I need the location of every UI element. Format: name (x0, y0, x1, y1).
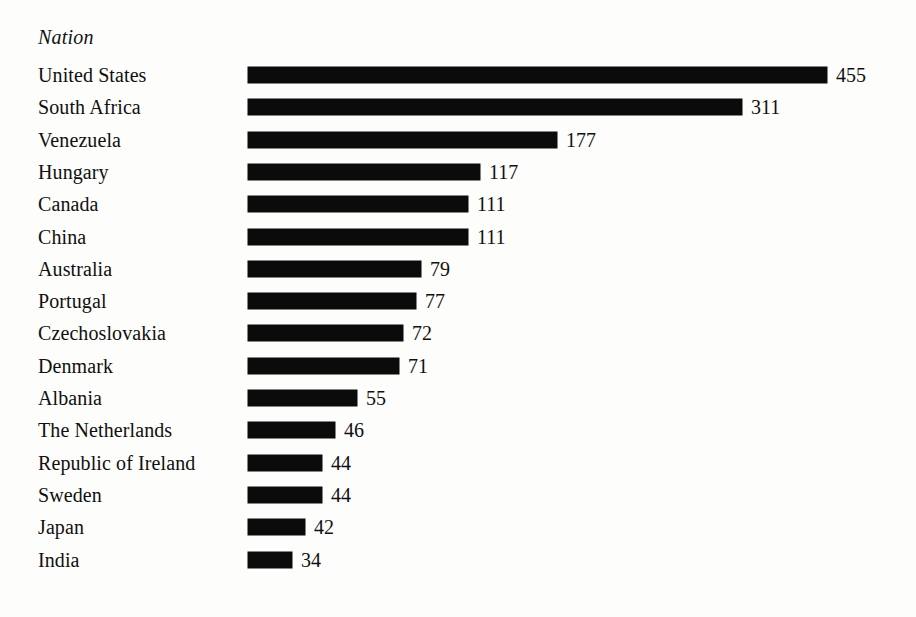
bar (248, 325, 403, 341)
bar-group: 79 (248, 261, 450, 277)
bar-group: 71 (248, 358, 428, 374)
bar-value-label: 111 (477, 227, 506, 247)
row-label-nation: Hungary (38, 161, 109, 183)
table-row: Venezuela177 (0, 124, 916, 156)
bar (248, 164, 480, 180)
bar-value-label: 311 (751, 97, 780, 117)
row-label-nation: Australia (38, 258, 112, 280)
bar-chart-rows: United States455South Africa311Venezuela… (0, 0, 916, 617)
bar (248, 261, 421, 277)
bar-value-label: 79 (430, 259, 450, 279)
row-label-nation: The Netherlands (38, 419, 172, 441)
bar-group: 77 (248, 293, 445, 309)
row-label-nation: Japan (38, 516, 84, 538)
bar-group: 117 (248, 164, 518, 180)
row-label-nation: Venezuela (38, 129, 121, 151)
table-row: China111 (0, 221, 916, 253)
bar-value-label: 71 (408, 356, 428, 376)
table-row: Australia79 (0, 253, 916, 285)
bar-group: 44 (248, 455, 351, 471)
bar-group: 455 (248, 67, 866, 83)
bar (248, 552, 292, 568)
table-row: The Netherlands46 (0, 414, 916, 446)
bar (248, 67, 827, 83)
table-row: South Africa311 (0, 91, 916, 123)
bar (248, 390, 357, 406)
bar-group: 42 (248, 519, 334, 535)
bar-group: 111 (248, 229, 506, 245)
bar (248, 293, 416, 309)
bar-group: 44 (248, 487, 351, 503)
bar (248, 229, 468, 245)
table-row: Sweden44 (0, 479, 916, 511)
row-label-nation: India (38, 549, 80, 571)
bar-value-label: 44 (331, 485, 351, 505)
bar-value-label: 44 (331, 453, 351, 473)
bar-value-label: 55 (366, 388, 386, 408)
bar-value-label: 177 (566, 130, 596, 150)
bar (248, 422, 335, 438)
bar-value-label: 111 (477, 194, 506, 214)
table-row: Hungary117 (0, 156, 916, 188)
table-row: India34 (0, 544, 916, 576)
row-label-nation: Portugal (38, 290, 107, 312)
bar (248, 196, 468, 212)
bar-value-label: 42 (314, 517, 334, 537)
row-label-nation: Canada (38, 193, 99, 215)
table-row: Denmark71 (0, 350, 916, 382)
table-row: Portugal77 (0, 285, 916, 317)
bar (248, 358, 399, 374)
bar-value-label: 455 (836, 65, 866, 85)
row-label-nation: United States (38, 64, 147, 86)
bar-group: 34 (248, 552, 321, 568)
table-row: Czechoslovakia72 (0, 317, 916, 349)
bar-value-label: 72 (412, 323, 432, 343)
row-label-nation: Republic of Ireland (38, 452, 195, 474)
bar-group: 46 (248, 422, 364, 438)
table-row: Albania55 (0, 382, 916, 414)
row-label-nation: South Africa (38, 96, 141, 118)
bar (248, 99, 742, 115)
row-label-nation: Czechoslovakia (38, 322, 166, 344)
bar (248, 455, 322, 471)
bar-group: 55 (248, 390, 386, 406)
bar-group: 72 (248, 325, 432, 341)
bar-group: 111 (248, 196, 506, 212)
bar-group: 177 (248, 132, 596, 148)
table-row: United States455 (0, 59, 916, 91)
chart-page: Nation United States455South Africa311Ve… (0, 0, 916, 617)
row-label-nation: Sweden (38, 484, 102, 506)
table-row: Republic of Ireland44 (0, 447, 916, 479)
bar-value-label: 34 (301, 550, 321, 570)
bar (248, 132, 557, 148)
bar-group: 311 (248, 99, 780, 115)
bar (248, 519, 305, 535)
bar-value-label: 46 (344, 420, 364, 440)
table-row: Canada111 (0, 188, 916, 220)
bar (248, 487, 322, 503)
bar-value-label: 77 (425, 291, 445, 311)
table-row: Japan42 (0, 511, 916, 543)
row-label-nation: Albania (38, 387, 102, 409)
bar-value-label: 117 (489, 162, 518, 182)
row-label-nation: China (38, 226, 86, 248)
row-label-nation: Denmark (38, 355, 113, 377)
